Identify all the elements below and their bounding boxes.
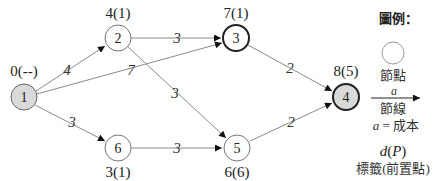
legend-node-caption: 節點 bbox=[380, 68, 406, 83]
legend: 圖例： 節點 a 節線 a = 成本 d(P) 標籤(前置點) bbox=[356, 11, 430, 176]
dist-label-3: 7(1) bbox=[224, 5, 249, 22]
dist-label-1: 0(--) bbox=[10, 63, 37, 80]
dist-label-4: 8(5) bbox=[334, 63, 359, 80]
legend-arc-symbol: a bbox=[391, 84, 397, 98]
legend-label-caption: 標籤(前置點) bbox=[356, 161, 430, 176]
legend-cost-text: = 成本 bbox=[379, 118, 419, 133]
node-3: 3 bbox=[223, 25, 249, 51]
node-2: 2 bbox=[105, 25, 131, 51]
legend-label-formula: d(P) bbox=[380, 143, 407, 160]
node-4-label: 4 bbox=[343, 90, 350, 105]
node-3-label: 3 bbox=[233, 31, 240, 46]
dist-label-5: 6(6) bbox=[225, 164, 250, 181]
edge-label-3-4: 2 bbox=[286, 60, 294, 76]
edge-label-2-5: 3 bbox=[170, 85, 179, 101]
legend-title: 圖例： bbox=[379, 11, 418, 26]
edge-label-6-5: 3 bbox=[172, 140, 181, 156]
edge-label-2-3: 3 bbox=[172, 30, 181, 46]
node-2-label: 2 bbox=[115, 31, 122, 46]
node-5-label: 5 bbox=[234, 141, 241, 156]
node-1: 1 bbox=[11, 84, 37, 110]
edges bbox=[35, 38, 332, 148]
legend-node-icon bbox=[382, 42, 404, 64]
edge-label-1-6: 3 bbox=[67, 114, 76, 130]
node-4: 4 bbox=[333, 84, 359, 110]
network-diagram: 4 7 3 3 3 3 2 2 1 2 3 4 5 6 bbox=[0, 0, 433, 181]
node-6-label: 6 bbox=[115, 141, 122, 156]
node-1-label: 1 bbox=[21, 90, 28, 105]
edge-label-1-2: 4 bbox=[63, 62, 71, 78]
dist-label-2: 4(1) bbox=[106, 5, 131, 22]
node-5: 5 bbox=[224, 135, 250, 161]
node-6: 6 bbox=[105, 135, 131, 161]
legend-arc-caption: 節線 bbox=[380, 101, 406, 116]
legend-cost-def: a = 成本 bbox=[373, 118, 419, 133]
dist-label-6: 3(1) bbox=[106, 164, 131, 181]
edge-label-5-4: 2 bbox=[287, 114, 295, 130]
edge-label-1-3: 7 bbox=[127, 62, 136, 78]
